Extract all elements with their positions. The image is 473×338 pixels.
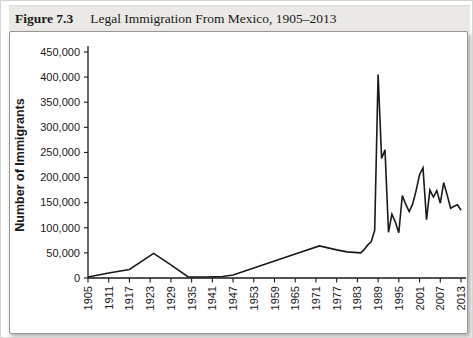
y-tick-label: 300,000 bbox=[40, 121, 80, 133]
x-tick-label: 1953 bbox=[248, 286, 260, 310]
x-tick-label: 1959 bbox=[269, 286, 281, 310]
y-tick-label: 350,000 bbox=[40, 96, 80, 108]
y-tick-label: 250,000 bbox=[40, 146, 80, 158]
y-tick-label: 450,000 bbox=[40, 46, 80, 58]
x-tick-label: 1947 bbox=[227, 286, 239, 310]
figure-container: Figure 7.3 Legal Immigration From Mexico… bbox=[0, 0, 473, 338]
x-tick-label: 1911 bbox=[103, 286, 115, 310]
x-tick-label: 1941 bbox=[206, 286, 218, 310]
x-tick-label: 1929 bbox=[165, 286, 177, 310]
x-tick-label: 1923 bbox=[144, 286, 156, 310]
x-tick-label: 1971 bbox=[310, 286, 322, 310]
figure-label: Figure 7.3 bbox=[15, 11, 73, 27]
x-tick-label: 1905 bbox=[82, 286, 94, 310]
y-tick-label: 150,000 bbox=[40, 196, 80, 208]
x-tick-label: 1983 bbox=[351, 286, 363, 310]
x-tick-label: 1917 bbox=[123, 286, 135, 310]
y-tick-label: 100,000 bbox=[40, 222, 80, 234]
x-tick-label: 2001 bbox=[414, 286, 426, 310]
x-tick-label: 1989 bbox=[372, 286, 384, 310]
y-tick-label: 200,000 bbox=[40, 171, 80, 183]
x-tick-label: 1977 bbox=[331, 286, 343, 310]
figure-header: Figure 7.3 Legal Immigration From Mexico… bbox=[9, 5, 470, 32]
y-axis-title: Number of Immigrants bbox=[13, 98, 27, 231]
x-tick-label: 1965 bbox=[289, 286, 301, 310]
line-chart: 050,000100,000150,000200,000250,000300,0… bbox=[10, 32, 467, 333]
figure-title: Legal Immigration From Mexico, 1905–2013 bbox=[90, 11, 336, 27]
x-tick-label: 1935 bbox=[186, 286, 198, 310]
x-tick-label: 2007 bbox=[434, 286, 446, 310]
x-tick-label: 1995 bbox=[393, 286, 405, 310]
chart-panel: 050,000100,000150,000200,000250,000300,0… bbox=[9, 31, 468, 334]
chart-line bbox=[88, 75, 461, 277]
y-tick-label: 0 bbox=[74, 272, 80, 284]
x-tick-label: 2013 bbox=[455, 286, 467, 310]
y-tick-label: 50,000 bbox=[46, 247, 80, 259]
y-tick-label: 400,000 bbox=[40, 71, 80, 83]
